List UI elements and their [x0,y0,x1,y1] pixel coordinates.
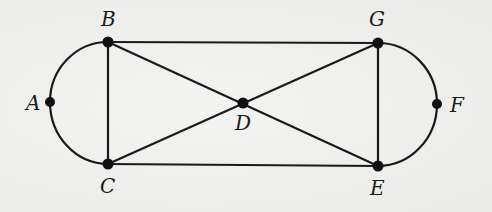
node-f [432,99,442,109]
label-e: E [369,176,385,200]
node-d [238,98,249,109]
label-a: A [24,91,40,115]
graph-diagram: A B C D E F G [0,0,492,212]
node-c [103,159,114,170]
node-e [373,161,384,172]
edge-a-c [50,102,108,164]
node-a [45,97,55,107]
edge-c-e [108,164,378,166]
edge-g-f [378,43,437,104]
label-f: F [449,93,465,117]
node-b [103,37,114,48]
label-g: G [369,7,385,31]
edge-a-b [50,42,108,102]
edge-f-e [378,104,437,166]
label-b: B [100,7,116,31]
edge-b-g [108,42,378,43]
label-d: D [234,111,251,135]
node-g [373,38,384,49]
graph-svg: A B C D E F G [0,0,492,212]
nodes [45,37,442,172]
label-c: C [100,174,115,198]
